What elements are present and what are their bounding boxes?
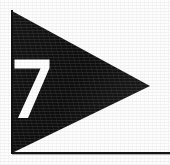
staff-edge <box>11 10 13 154</box>
numeral-seven-path <box>15 60 50 119</box>
numeral-seven-svg <box>13 59 53 119</box>
baseline-rule-shadow <box>12 154 170 155</box>
pennant-plate: 7 Pennant 7 Black right-pointing triangu… <box>0 0 170 165</box>
numeral-seven <box>13 59 53 119</box>
